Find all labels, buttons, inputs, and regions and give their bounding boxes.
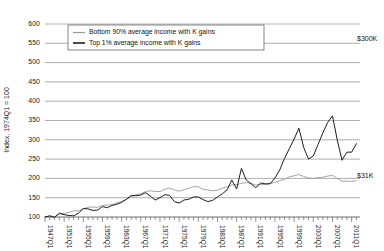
x-tick-labels: 1947Q11951Q11955Q11959Q11963Q11967Q11971… bbox=[46, 225, 361, 249]
x-tick-1999Q1: 1999Q1 bbox=[295, 225, 303, 249]
y-tick-250: 250 bbox=[28, 155, 40, 162]
x-tick-1983Q1: 1983Q1 bbox=[218, 225, 226, 249]
x-tick-1971Q1: 1971Q1 bbox=[161, 225, 169, 249]
x-tick-1979Q1: 1979Q1 bbox=[199, 225, 207, 249]
x-tick-1963Q1: 1963Q1 bbox=[122, 225, 130, 249]
x-tick-1959Q1: 1959Q1 bbox=[103, 225, 111, 249]
chart-legend: Bottom 90% average income with K gains T… bbox=[68, 25, 264, 50]
y-tick-450: 450 bbox=[28, 78, 40, 85]
x-tick-1995Q1: 1995Q1 bbox=[276, 225, 284, 249]
chart-canvas: 100150200250300350400450500550600 1947Q1… bbox=[0, 0, 384, 251]
x-tick-1951Q1: 1951Q1 bbox=[65, 225, 73, 249]
x-tick-1947Q1: 1947Q1 bbox=[46, 225, 54, 249]
x-tick-1967Q1: 1967Q1 bbox=[141, 225, 149, 249]
y-gridlines bbox=[45, 24, 360, 217]
legend-label-top-1: Top 1% average income with K gains bbox=[89, 39, 201, 47]
y-tick-400: 400 bbox=[28, 97, 40, 104]
y-tick-labels: 100150200250300350400450500550600 bbox=[28, 20, 40, 220]
y-tick-200: 200 bbox=[28, 174, 40, 181]
y-tick-350: 350 bbox=[28, 116, 40, 123]
x-tick-2007Q1: 2007Q1 bbox=[333, 225, 341, 249]
x-axis bbox=[45, 217, 356, 222]
top1-end-value: $300K bbox=[357, 35, 378, 42]
series-line-bottom-90 bbox=[45, 175, 356, 217]
y-tick-150: 150 bbox=[28, 194, 40, 201]
legend-label-bottom-90: Bottom 90% average income with K gains bbox=[89, 28, 215, 36]
series-line-top-1 bbox=[45, 116, 356, 218]
y-tick-100: 100 bbox=[28, 213, 40, 220]
bottom90-end-value: $31K bbox=[357, 172, 374, 179]
x-tick-1987Q1: 1987Q1 bbox=[237, 225, 245, 249]
x-tick-2003Q1: 2003Q1 bbox=[314, 225, 322, 249]
x-tick-1975Q1: 1975Q1 bbox=[180, 225, 188, 249]
annotations: $300K$31K bbox=[357, 35, 378, 179]
y-tick-500: 500 bbox=[28, 58, 40, 65]
y-tick-600: 600 bbox=[28, 20, 40, 27]
x-tick-1991Q1: 1991Q1 bbox=[256, 225, 264, 249]
y-axis-label: Index, 1974Q1 = 100 bbox=[3, 87, 11, 153]
y-tick-550: 550 bbox=[28, 39, 40, 46]
y-tick-300: 300 bbox=[28, 136, 40, 143]
x-tick-2011Q1: 2011Q1 bbox=[352, 225, 360, 248]
income-index-chart: 100150200250300350400450500550600 1947Q1… bbox=[0, 0, 384, 251]
x-tick-1955Q1: 1955Q1 bbox=[84, 225, 92, 249]
